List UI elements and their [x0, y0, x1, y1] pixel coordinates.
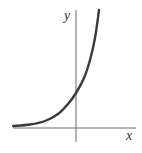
exponential-curve — [13, 10, 99, 126]
y-axis-label: y — [62, 8, 71, 23]
chart-canvas: y x — [0, 0, 142, 153]
x-axis-label: x — [125, 128, 133, 143]
